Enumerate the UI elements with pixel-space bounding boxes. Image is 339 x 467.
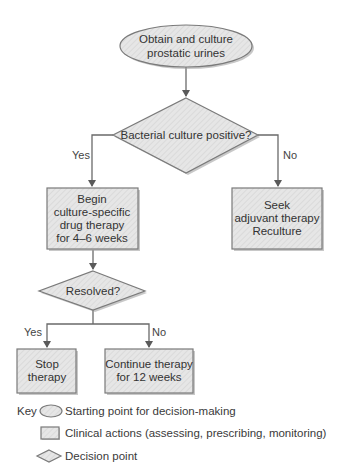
node-start: Obtain and culture prostatic urines: [120, 25, 254, 69]
seek-line-3: Reculture: [252, 225, 301, 237]
label-decision2-yes: Yes: [24, 326, 42, 338]
label-decision2-no: No: [152, 326, 166, 338]
legend-ellipse-label: Starting point for decision-making: [65, 405, 236, 417]
stop-line-1: Stop: [35, 358, 59, 370]
node-start-line-1: Obtain and culture: [139, 33, 233, 45]
node-stop-therapy: Stop therapy: [17, 349, 78, 395]
decision2-text: Resolved?: [66, 285, 120, 297]
node-seek-adjuvant: Seek adjuvant therapy Reculture: [232, 188, 324, 251]
begin-line-3: drug therapy: [60, 219, 125, 231]
begin-line-2: culture-specific: [54, 206, 131, 218]
legend: Key Starting point for decision-making C…: [17, 405, 327, 462]
edge-decision1-no: [258, 135, 278, 186]
stop-line-2: therapy: [28, 371, 67, 383]
node-continue-therapy: Continue therapy for 12 weeks: [105, 349, 195, 395]
begin-line-1: Begin: [77, 193, 106, 205]
legend-item-rectangle: Clinical actions (assessing, prescribing…: [41, 427, 327, 440]
seek-line-1: Seek: [264, 199, 290, 211]
legend-rectangle-label: Clinical actions (assessing, prescribing…: [65, 427, 327, 439]
legend-diamond-label: Decision point: [65, 450, 138, 462]
diamond-icon: [37, 450, 61, 462]
seek-line-2: adjuvant therapy: [234, 212, 319, 224]
begin-line-4: for 4–6 weeks: [56, 232, 128, 244]
legend-item-ellipse: Starting point for decision-making: [40, 405, 236, 417]
node-decision-resolved: Resolved?: [39, 271, 147, 312]
edge-decision1-yes: [92, 135, 113, 186]
edge-decision2-yes: [47, 324, 93, 347]
decision1-text: Bacterial culture positive?: [120, 129, 251, 141]
legend-item-diamond: Decision point: [37, 450, 138, 462]
continue-line-2: for 12 weeks: [116, 371, 181, 383]
rectangle-icon: [41, 427, 59, 439]
edge-decision2-no: [93, 324, 149, 347]
node-begin-therapy: Begin culture-specific drug therapy for …: [47, 188, 140, 251]
ellipse-icon: [40, 405, 62, 417]
node-decision-bacterial-culture: Bacterial culture positive?: [113, 98, 260, 175]
label-decision1-yes: Yes: [72, 149, 90, 161]
continue-line-1: Continue therapy: [105, 358, 193, 370]
legend-title: Key: [17, 405, 37, 417]
node-start-line-2: prostatic urines: [147, 47, 225, 59]
flowchart: Yes No Yes No Obtain and culture prostat…: [0, 0, 339, 467]
label-decision1-no: No: [283, 149, 297, 161]
